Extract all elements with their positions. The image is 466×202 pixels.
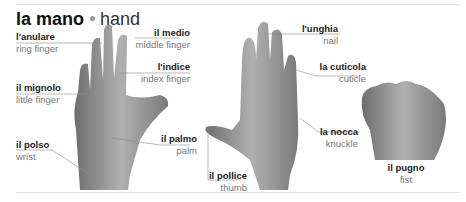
leader-lines bbox=[16, 34, 360, 180]
bottom-rule bbox=[16, 192, 460, 193]
label-palm: il palmo palm bbox=[150, 133, 197, 157]
label-knuckle: la nocca knuckle bbox=[310, 126, 358, 150]
fist-image bbox=[362, 81, 446, 160]
back-hand-image bbox=[205, 22, 298, 190]
label-nail: l'unghia nail bbox=[300, 23, 338, 47]
label-little-finger: il mignolo little finger bbox=[16, 82, 61, 106]
label-wrist: il polso wrist bbox=[16, 139, 49, 163]
label-thumb: il pollice thumb bbox=[200, 170, 247, 194]
label-middle-finger: il medio middle finger bbox=[130, 27, 190, 51]
label-cuticle: la cuticola cuticle bbox=[310, 61, 366, 85]
label-ring-finger: l'anulare ring finger bbox=[16, 31, 58, 55]
label-index-finger: l'indice index finger bbox=[140, 61, 190, 85]
label-fist: il pugno fist bbox=[376, 162, 436, 186]
